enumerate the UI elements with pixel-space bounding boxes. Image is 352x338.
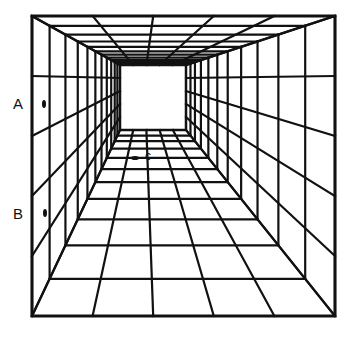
- left-wall-longitudinal-line: [32, 130, 120, 316]
- marker-b-dot: [43, 209, 47, 217]
- right-wall-longitudinal-line: [186, 117, 335, 256]
- back-wall: [120, 65, 186, 130]
- label-b: B: [13, 206, 23, 221]
- marker-a-dot: [42, 100, 46, 108]
- right-wall-longitudinal-line: [186, 130, 335, 316]
- label-c: c: [145, 150, 151, 162]
- perspective-grid: [32, 16, 335, 316]
- left-wall-longitudinal-line: [32, 117, 120, 256]
- label-a: A: [13, 96, 23, 111]
- corridor-figure: [0, 0, 352, 338]
- marker-c-dot: [131, 156, 139, 160]
